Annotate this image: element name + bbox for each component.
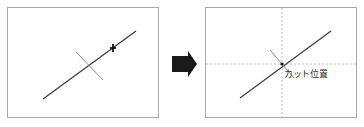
cut-point xyxy=(280,62,283,65)
before-drawing xyxy=(8,8,160,119)
after-drawing xyxy=(206,8,358,119)
right-arrow-icon xyxy=(172,51,197,77)
before-panel xyxy=(7,7,159,118)
after-panel: カット位置 xyxy=(205,7,357,118)
crosshair-cursor-icon xyxy=(110,44,116,52)
main-line xyxy=(240,31,331,98)
cut-position-label: カット位置 xyxy=(284,67,328,80)
perpendicular-marker xyxy=(76,52,103,80)
main-line xyxy=(43,31,136,99)
